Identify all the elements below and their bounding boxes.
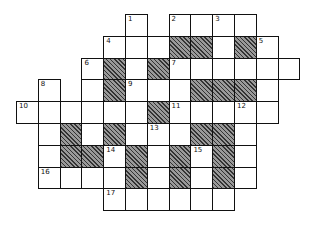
crossword-cell[interactable]: 12 <box>234 101 257 124</box>
clue-number: 17 <box>106 189 115 197</box>
crossword-cell[interactable] <box>81 101 104 124</box>
crossword-cell[interactable]: 4 <box>103 36 126 59</box>
crossword-cell[interactable] <box>103 167 126 190</box>
crossword-cell[interactable] <box>169 123 192 146</box>
black-square <box>212 167 235 190</box>
clue-number: 12 <box>237 102 246 110</box>
crossword-cell[interactable] <box>212 58 235 81</box>
crossword-cell[interactable]: 17 <box>103 188 126 211</box>
clue-number: 15 <box>193 146 202 154</box>
clue-number: 14 <box>106 146 115 154</box>
black-square <box>60 145 83 168</box>
clue-number: 10 <box>19 102 28 110</box>
crossword-cell[interactable] <box>256 79 279 102</box>
clue-number: 5 <box>259 37 263 45</box>
crossword-cell[interactable] <box>147 145 170 168</box>
crossword-cell[interactable] <box>60 167 83 190</box>
crossword-cell[interactable]: 9 <box>125 79 148 102</box>
clue-number: 1 <box>128 15 132 23</box>
crossword-cell[interactable] <box>38 123 61 146</box>
crossword-cell[interactable]: 2 <box>169 14 192 37</box>
crossword-cell[interactable] <box>125 36 148 59</box>
crossword-cell[interactable] <box>81 79 104 102</box>
black-square <box>103 58 126 81</box>
clue-number: 8 <box>41 80 45 88</box>
crossword-cell[interactable]: 13 <box>147 123 170 146</box>
black-square <box>60 123 83 146</box>
crossword-grid: 1234567891011121314151617 <box>0 0 318 232</box>
crossword-cell[interactable] <box>190 14 213 37</box>
black-square <box>212 79 235 102</box>
black-square <box>190 123 213 146</box>
black-square <box>103 123 126 146</box>
crossword-cell[interactable] <box>147 79 170 102</box>
crossword-cell[interactable] <box>103 101 126 124</box>
crossword-cell[interactable] <box>81 167 104 190</box>
crossword-cell[interactable]: 8 <box>38 79 61 102</box>
crossword-cell[interactable]: 16 <box>38 167 61 190</box>
black-square <box>212 123 235 146</box>
clue-number: 9 <box>128 80 132 88</box>
crossword-cell[interactable] <box>147 36 170 59</box>
black-square <box>169 145 192 168</box>
crossword-cell[interactable] <box>256 58 279 81</box>
clue-number: 13 <box>150 124 159 132</box>
crossword-cell[interactable] <box>234 167 257 190</box>
crossword-cell[interactable]: 7 <box>169 58 192 81</box>
black-square <box>147 101 170 124</box>
crossword-cell[interactable] <box>38 145 61 168</box>
crossword-cell[interactable] <box>190 167 213 190</box>
black-square <box>190 36 213 59</box>
black-square <box>169 167 192 190</box>
clue-number: 7 <box>172 59 176 67</box>
crossword-cell[interactable] <box>212 101 235 124</box>
crossword-cell[interactable] <box>169 188 192 211</box>
clue-number: 4 <box>106 37 110 45</box>
crossword-cell[interactable] <box>190 58 213 81</box>
black-square <box>147 58 170 81</box>
crossword-cell[interactable] <box>278 58 301 81</box>
clue-number: 11 <box>172 102 181 110</box>
black-square <box>169 36 192 59</box>
crossword-cell[interactable]: 6 <box>81 58 104 81</box>
crossword-cell[interactable] <box>125 101 148 124</box>
black-square <box>212 145 235 168</box>
crossword-cell[interactable] <box>234 14 257 37</box>
crossword-cell[interactable]: 10 <box>16 101 39 124</box>
crossword-cell[interactable] <box>60 101 83 124</box>
crossword-cell[interactable] <box>234 145 257 168</box>
clue-number: 6 <box>84 59 88 67</box>
crossword-cell[interactable] <box>125 58 148 81</box>
crossword-cell[interactable] <box>38 101 61 124</box>
black-square <box>234 36 257 59</box>
crossword-cell[interactable]: 15 <box>190 145 213 168</box>
crossword-cell[interactable] <box>147 188 170 211</box>
crossword-cell[interactable] <box>212 36 235 59</box>
crossword-cell[interactable] <box>169 79 192 102</box>
crossword-cell[interactable]: 11 <box>169 101 192 124</box>
crossword-cell[interactable] <box>234 123 257 146</box>
crossword-cell[interactable] <box>256 101 279 124</box>
crossword-cell[interactable]: 3 <box>212 14 235 37</box>
clue-number: 3 <box>215 15 219 23</box>
black-square <box>190 79 213 102</box>
black-square <box>125 167 148 190</box>
black-square <box>234 79 257 102</box>
clue-number: 16 <box>41 168 50 176</box>
crossword-cell[interactable] <box>125 123 148 146</box>
black-square <box>103 79 126 102</box>
black-square <box>125 145 148 168</box>
crossword-cell[interactable]: 1 <box>125 14 148 37</box>
crossword-cell[interactable]: 5 <box>256 36 279 59</box>
crossword-cell[interactable]: 14 <box>103 145 126 168</box>
crossword-cell[interactable] <box>190 101 213 124</box>
crossword-cell[interactable] <box>212 188 235 211</box>
black-square <box>81 145 104 168</box>
clue-number: 2 <box>172 15 176 23</box>
crossword-cell[interactable] <box>147 167 170 190</box>
crossword-cell[interactable] <box>190 188 213 211</box>
crossword-cell[interactable] <box>125 188 148 211</box>
crossword-cell[interactable] <box>81 123 104 146</box>
crossword-cell[interactable] <box>234 58 257 81</box>
